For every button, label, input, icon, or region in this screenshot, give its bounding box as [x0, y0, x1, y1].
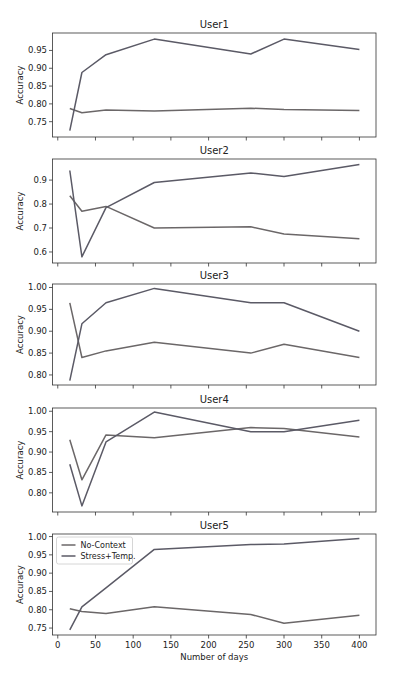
x-tick-label: 100 [125, 640, 141, 650]
y-tick-label: 0.90 [28, 568, 47, 578]
y-tick-label: 0.6 [33, 247, 47, 257]
subplot-user2: User2Accuracy0.60.70.80.9 [15, 145, 376, 267]
series-line-stress-temp [70, 165, 360, 257]
y-axis-label: Accuracy [15, 315, 25, 354]
series-line-stress-temp [70, 288, 360, 380]
y-tick-label: 0.85 [28, 586, 47, 596]
legend-label: Stress+Temp. [81, 552, 136, 561]
y-tick-label: 0.95 [28, 304, 47, 314]
y-axis-label: Accuracy [15, 565, 25, 604]
y-tick-label: 0.95 [28, 427, 47, 437]
series-line-no-context [70, 196, 360, 239]
series-line-stress-temp [70, 412, 360, 506]
subplot-user3: User3Accuracy0.800.850.900.951.00 [15, 270, 376, 389]
subplot-user5: User5Accuracy0.750.800.850.900.951.00050… [15, 520, 376, 662]
subplot-title: User4 [200, 394, 229, 405]
y-tick-label: 0.9 [33, 175, 47, 185]
legend: No-ContextStress+Temp. [57, 537, 136, 564]
y-tick-label: 1.00 [28, 406, 47, 416]
y-tick-label: 0.95 [28, 45, 47, 55]
y-axis-label: Accuracy [15, 192, 25, 231]
x-axis-label: Number of days [180, 652, 248, 662]
series-line-no-context [70, 303, 360, 358]
x-tick-label: 250 [238, 640, 254, 650]
y-tick-label: 0.8 [33, 199, 47, 209]
y-tick-label: 0.90 [28, 326, 47, 336]
y-tick-label: 0.75 [28, 117, 47, 127]
y-tick-label: 0.80 [28, 370, 47, 380]
y-tick-label: 1.00 [28, 282, 47, 292]
series-line-stress-temp [70, 39, 360, 131]
subplot-title: User5 [200, 520, 229, 531]
subplot-title: User2 [200, 145, 229, 156]
y-tick-label: 0.85 [28, 348, 47, 358]
figure: User1Accuracy0.750.800.850.900.95User2Ac… [0, 0, 396, 676]
subplot-user1: User1Accuracy0.750.800.850.900.95 [15, 19, 376, 141]
y-axis-label: Accuracy [15, 441, 25, 480]
y-tick-label: 1.00 [28, 532, 47, 542]
series-line-no-context [70, 108, 360, 113]
subplot-title: User3 [200, 270, 229, 281]
subplot-user4: User4Accuracy0.800.850.900.951.00 [15, 394, 376, 516]
y-tick-label: 0.90 [28, 63, 47, 73]
legend-label: No-Context [81, 541, 126, 550]
axes-frame [53, 159, 377, 263]
x-tick-label: 50 [90, 640, 101, 650]
x-tick-label: 200 [200, 640, 216, 650]
subplot-title: User1 [200, 19, 229, 30]
chart-canvas: User1Accuracy0.750.800.850.900.95User2Ac… [0, 0, 396, 676]
series-line-no-context [70, 428, 360, 480]
series-line-no-context [70, 607, 360, 624]
y-tick-label: 0.95 [28, 550, 47, 560]
y-tick-label: 0.90 [28, 447, 47, 457]
y-tick-label: 0.80 [28, 488, 47, 498]
y-tick-label: 0.80 [28, 605, 47, 615]
x-tick-label: 0 [55, 640, 60, 650]
y-tick-label: 0.7 [33, 223, 47, 233]
y-tick-label: 0.80 [28, 99, 47, 109]
axes-frame [53, 284, 377, 385]
y-tick-label: 0.85 [28, 467, 47, 477]
y-tick-label: 0.75 [28, 623, 47, 633]
x-tick-label: 400 [351, 640, 367, 650]
y-axis-label: Accuracy [15, 66, 25, 105]
x-tick-label: 350 [314, 640, 330, 650]
x-tick-label: 150 [163, 640, 179, 650]
x-tick-label: 300 [276, 640, 292, 650]
y-tick-label: 0.85 [28, 81, 47, 91]
